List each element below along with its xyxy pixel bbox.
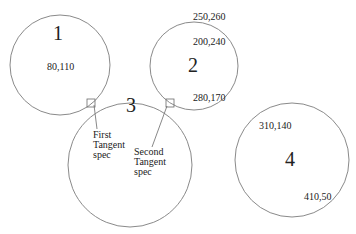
circle-2-point-1: 250,260 <box>193 11 226 22</box>
second-tangent-spec: Second Tangent spec <box>134 99 174 177</box>
circle-3: 3 <box>68 94 192 227</box>
circle-4: 310,140 4 410,50 <box>235 103 349 217</box>
circle-2-label: 2 <box>188 54 198 76</box>
first-tangent-text-line-3: spec <box>93 149 111 160</box>
circle-1-point-1: 80,110 <box>47 61 74 72</box>
circle-2-point-3: 280,170 <box>193 92 226 103</box>
tangent-circles-diagram: 1 80,110 250,260 200,240 2 280,170 3 310… <box>0 0 356 234</box>
circle-3-outline <box>68 103 192 227</box>
circle-1-label: 1 <box>53 22 63 44</box>
circle-4-point-2: 410,50 <box>304 191 332 202</box>
second-tangent-text-line-3: spec <box>134 166 152 177</box>
circle-2-point-2: 200,240 <box>193 36 226 47</box>
second-tangent-leader-line <box>152 106 167 147</box>
circle-4-label: 4 <box>285 148 295 170</box>
first-tangent-leader-line <box>94 105 97 129</box>
circle-2: 250,260 200,240 2 280,170 <box>150 11 238 110</box>
circle-3-label: 3 <box>126 94 136 116</box>
circle-4-point-1: 310,140 <box>259 120 292 131</box>
